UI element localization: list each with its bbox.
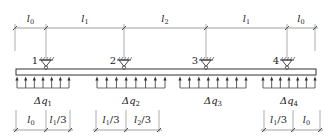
span-label: l0 <box>27 13 34 26</box>
pin-support-2: 2 <box>110 55 132 69</box>
support-number: 2 <box>110 55 116 66</box>
beam-diagram-svg: l0l1l2l1l01234Δq1Δq2Δq3Δq4l0l1/3l1/3l2/3… <box>0 0 331 140</box>
load-label: Δq2 <box>121 95 140 108</box>
up-arrow-icon <box>270 77 273 81</box>
pin-support-3: 3 <box>192 55 214 69</box>
up-arrow-icon <box>163 77 166 81</box>
up-arrow-icon <box>305 77 308 81</box>
distributed-load-3: Δq3 <box>178 77 247 109</box>
support-pin-icon <box>285 66 288 69</box>
up-arrow-icon <box>279 77 282 81</box>
load-label: Δq4 <box>279 95 299 108</box>
beam <box>16 69 316 75</box>
up-arrow-icon <box>15 77 18 81</box>
up-arrow-icon <box>95 77 98 81</box>
up-arrow-icon <box>41 77 44 81</box>
support-pin-icon <box>204 66 207 69</box>
dimension-label: l1/3 <box>49 114 66 127</box>
up-arrow-icon <box>115 77 118 81</box>
up-arrow-icon <box>105 77 108 81</box>
distributed-load-2: Δq2 <box>95 77 166 109</box>
dimension-label: l1/3 <box>102 114 119 127</box>
load-label: Δq3 <box>203 95 222 108</box>
dimension-label: l2/3 <box>134 114 151 127</box>
span-label: l0 <box>297 13 304 26</box>
distributed-load-1: Δq1 <box>15 77 70 109</box>
up-arrow-icon <box>296 77 299 81</box>
up-arrow-icon <box>226 77 229 81</box>
up-arrow-icon <box>125 77 128 81</box>
pin-support-1: 1 <box>32 55 54 69</box>
span-label: l1 <box>243 13 250 26</box>
up-arrow-icon <box>197 77 200 81</box>
load-label: Δq1 <box>33 95 52 108</box>
up-arrow-icon <box>67 77 70 81</box>
up-arrow-icon <box>287 77 290 81</box>
dimension-label: l1/3 <box>270 114 287 127</box>
up-arrow-icon <box>144 77 147 81</box>
up-arrow-icon <box>235 77 238 81</box>
support-pin-icon <box>44 66 47 69</box>
up-arrow-icon <box>207 77 210 81</box>
up-arrow-icon <box>216 77 219 81</box>
support-number: 1 <box>32 55 38 66</box>
top-dimension-chain: l0l1l2l1l0 <box>13 13 318 58</box>
up-arrow-icon <box>244 77 247 81</box>
up-arrow-icon <box>188 77 191 81</box>
support-pin-icon <box>122 66 125 69</box>
span-label: l1 <box>81 13 88 26</box>
beam-diagram: l0l1l2l1l01234Δq1Δq2Δq3Δq4l0l1/3l1/3l2/3… <box>0 0 331 140</box>
dimension-label: l0 <box>27 114 34 127</box>
up-arrow-icon <box>178 77 181 81</box>
up-arrow-icon <box>50 77 53 81</box>
up-arrow-icon <box>33 77 36 81</box>
up-arrow-icon <box>154 77 157 81</box>
up-arrow-icon <box>24 77 27 81</box>
span-label: l2 <box>161 13 168 26</box>
distributed-load-4: Δq4 <box>261 77 316 109</box>
dimension-label: l0 <box>303 114 310 127</box>
bottom-dimensions: l0l1/3l1/3l2/3l1/3l0 <box>13 110 323 132</box>
support-number: 3 <box>192 55 198 66</box>
up-arrow-icon <box>261 77 264 81</box>
pin-support-4: 4 <box>273 55 295 69</box>
up-arrow-icon <box>59 77 62 81</box>
support-number: 4 <box>273 55 279 66</box>
up-arrow-icon <box>134 77 137 81</box>
up-arrow-icon <box>313 77 316 81</box>
